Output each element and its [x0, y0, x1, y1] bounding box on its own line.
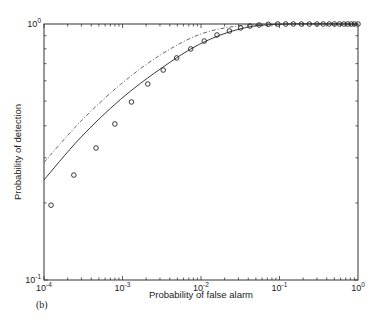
axis-ticks: [44, 24, 358, 280]
series-layer: [44, 22, 360, 208]
data-point: [145, 82, 150, 87]
plot-area: [44, 24, 358, 280]
y-tick-label: 100: [27, 17, 41, 29]
circle-markers: [49, 22, 361, 208]
dash-dot-curve: [44, 24, 358, 163]
data-point: [94, 146, 99, 151]
data-point: [161, 68, 166, 73]
x-tick-label: 100: [351, 281, 365, 293]
data-point: [72, 173, 77, 178]
x-tick-label: 10-4: [36, 281, 52, 293]
data-point: [49, 203, 54, 208]
panel-label: (b): [36, 299, 48, 311]
solid-curve: [44, 24, 358, 180]
plot-frame: [44, 24, 358, 280]
x-tick-label: 10-3: [115, 281, 131, 293]
x-tick-label: 10-1: [272, 281, 288, 293]
data-point: [113, 122, 118, 127]
x-axis-label: Probability of false alarm: [149, 289, 253, 300]
y-axis-label: Probability of detection: [12, 104, 23, 200]
data-point: [129, 100, 134, 105]
roc-chart: 10-410-310-210-110010-1100 Probability o…: [0, 0, 381, 324]
tick-labels: 10-410-310-210-110010-1100: [25, 17, 365, 293]
